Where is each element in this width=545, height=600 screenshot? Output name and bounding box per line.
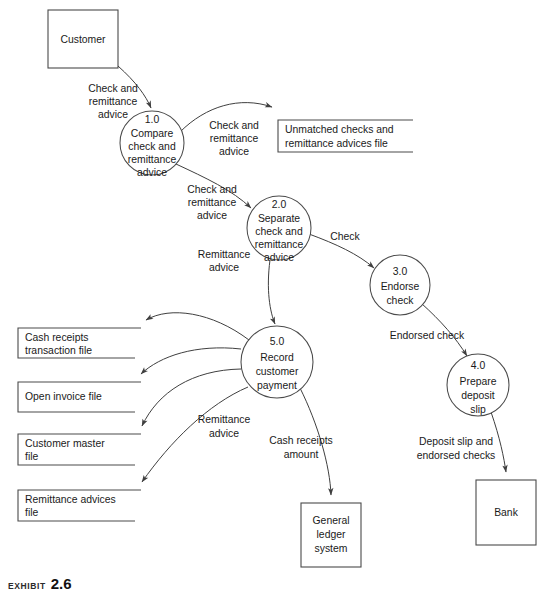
flow-label-p1-p2-line-3: advice [197, 210, 227, 221]
unmatched-checks-file-line-1: Unmatched checks and [285, 124, 394, 135]
flow-label-p1-p2-line-1: Check and [187, 184, 237, 195]
process-2-number: 2.0 [272, 199, 287, 210]
process-1-label-line-2: check and [128, 141, 176, 152]
flow-arrow-process-2-to-process-5 [268, 260, 275, 324]
flow-label-process-2-to-process-5: Remittance advice [198, 249, 251, 273]
process-2-label-line-2: check and [255, 226, 303, 237]
process-1-label-line-1: Compare [131, 128, 174, 139]
external-entity-customer[interactable]: Customer [48, 10, 118, 68]
process-5-record-customer-payment[interactable]: 5.0 Record customer payment [241, 326, 313, 398]
process-4-label-line-3: slip [470, 404, 486, 415]
process-1-number: 1.0 [145, 114, 160, 125]
flow-label-process-1-to-unmatched-file: Check and remittance advice [209, 120, 259, 157]
remittance-advices-file-line-2: file [25, 507, 39, 518]
flow-label-p4-bank-line-1: Deposit slip and [419, 436, 493, 447]
process-5-number: 5.0 [270, 336, 285, 347]
flow-label-process-2-to-process-3: Check [330, 231, 360, 242]
flow-label-customer-to-process-1-line-2: remittance [89, 96, 138, 107]
data-store-open-invoice-file[interactable]: Open invoice file [18, 382, 141, 412]
process-4-number: 4.0 [471, 360, 486, 371]
flow-label-p2-p3-line-1: Check [330, 231, 360, 242]
flow-label-customer-to-process-1: Check and remittance advice [88, 83, 138, 120]
flow-label-process-5-to-remittance-advices-file: Remittance advice [198, 414, 251, 439]
process-3-endorse-check[interactable]: 3.0 Endorse check [370, 255, 430, 315]
flow-label-p5-ra-line-2: advice [209, 428, 239, 439]
flow-arrow-process-5-to-cash-receipts-file [146, 313, 249, 340]
cash-receipts-transaction-file-line-2: transaction file [25, 345, 92, 356]
customer-master-file-line-1: Customer master [25, 438, 105, 449]
customer-master-file-line-2: file [25, 451, 39, 462]
process-5-label-line-3: payment [257, 380, 297, 391]
process-2-label-line-3: remittance [255, 239, 304, 250]
flow-label-p2-p5-line-1: Remittance [198, 249, 251, 260]
process-1-label-line-4: advice [137, 167, 167, 178]
cash-receipts-transaction-file-line-1: Cash receipts [25, 332, 89, 343]
process-4-label-line-1: Prepare [460, 376, 497, 387]
process-3-label-line-1: Endorse [381, 281, 420, 292]
exhibit-caption: Exhibit 2.6 [8, 575, 72, 592]
gl-label-line-1: General [313, 515, 350, 526]
process-5-label-line-1: Record [260, 352, 294, 363]
flow-label-p5-gl-line-1: Cash receipts [269, 435, 333, 446]
process-5-label-line-2: customer [256, 366, 299, 377]
unmatched-checks-file-line-2: remittance advices file [285, 138, 388, 149]
external-entity-general-ledger-system[interactable]: General ledger system [301, 503, 361, 567]
flow-label-p5-ra-line-1: Remittance [198, 414, 251, 425]
open-invoice-file-line-1: Open invoice file [25, 391, 102, 402]
data-store-remittance-advices-file[interactable]: Remittance advices file [18, 490, 141, 521]
process-3-number: 3.0 [393, 266, 408, 277]
data-store-customer-master-file[interactable]: Customer master file [18, 434, 141, 465]
exhibit-caption-number: 2.6 [51, 575, 72, 592]
process-1-compare-check-and-remittance-advice[interactable]: 1.0 Compare check and remittance advice [120, 111, 184, 178]
data-flow-diagram-canvas: Customer General ledger system Bank Unma… [0, 0, 545, 600]
flow-label-p1-p2-line-2: remittance [188, 197, 237, 208]
flow-label-p4-bank-line-2: endorsed checks [417, 450, 496, 461]
flow-label-customer-to-process-1-line-3: advice [98, 109, 128, 120]
data-store-cash-receipts-transaction-file[interactable]: Cash receipts transaction file [18, 328, 141, 358]
flow-label-process-4-to-bank: Deposit slip and endorsed checks [417, 436, 496, 461]
flow-label-process-3-to-process-4: Endorsed check [390, 330, 465, 341]
external-entity-customer-label: Customer [60, 34, 106, 45]
flow-label-p1-unmatched-line-2: remittance [210, 133, 259, 144]
flow-arrow-process-4-to-bank [491, 412, 506, 472]
process-2-separate-check-and-remittance-advice[interactable]: 2.0 Separate check and remittance advice [247, 196, 311, 263]
process-3-label-line-2: check [386, 295, 414, 306]
process-1-label-line-3: remittance [128, 154, 177, 165]
flow-label-p1-unmatched-line-3: advice [219, 146, 249, 157]
bank-label: Bank [494, 507, 518, 518]
gl-label-line-2: ledger [317, 529, 346, 540]
flow-label-p3-p4-line-1: Endorsed check [390, 330, 465, 341]
flow-label-p5-gl-line-2: amount [284, 449, 319, 460]
remittance-advices-file-line-1: Remittance advices [25, 494, 116, 505]
process-4-label-line-2: deposit [461, 390, 495, 401]
flow-label-p2-p5-line-2: advice [209, 262, 239, 273]
external-entity-bank[interactable]: Bank [476, 480, 536, 545]
data-store-unmatched-checks-file[interactable]: Unmatched checks and remittance advices … [278, 120, 413, 152]
flow-label-customer-to-process-1-line-1: Check and [88, 83, 138, 94]
flow-label-p1-unmatched-line-1: Check and [209, 120, 259, 131]
process-2-label-line-1: Separate [258, 213, 300, 224]
process-4-prepare-deposit-slip[interactable]: 4.0 Prepare deposit slip [447, 354, 509, 416]
gl-label-line-3: system [315, 543, 348, 554]
flow-label-process-1-to-process-2: Check and remittance advice [187, 184, 237, 221]
process-2-label-line-4: advice [264, 252, 294, 263]
exhibit-caption-kicker: Exhibit [8, 581, 46, 591]
